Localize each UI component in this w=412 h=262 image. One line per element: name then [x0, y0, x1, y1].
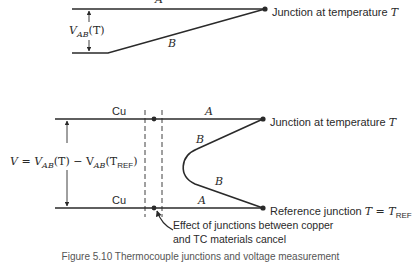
junction-label-top: Junction at temperature T — [272, 2, 398, 20]
voltage-equation: V = VAB(T) − VAB(TREF) — [10, 155, 137, 170]
junction-ref-equation: T = T — [365, 205, 396, 218]
equation-arg-close: ) — [133, 155, 137, 168]
voltage-symbol: V — [69, 24, 77, 37]
junction-ref-label: Reference junction T = TREF — [270, 201, 412, 220]
cu-label-bottom: Cu — [112, 194, 126, 206]
junction-hot-symbol: T — [389, 116, 396, 129]
bottom-diagram — [55, 110, 266, 230]
figure-caption: Figure 5.10 Thermocouple junctions and v… — [0, 251, 401, 262]
voltage-subscript: AB — [77, 30, 89, 39]
voltage-argument: (T) — [89, 24, 105, 37]
wire-a-label-top: A — [155, 0, 163, 6]
annotation-line-2: and TC materials cancel — [173, 233, 286, 245]
junction-hot-label: Junction at temperature T — [270, 112, 396, 130]
cu-label-top: Cu — [112, 105, 126, 117]
cu-junction-dot-bottom — [152, 206, 157, 211]
wire-b-label-upper: B — [196, 133, 204, 146]
equation-ref-subscript: REF — [117, 161, 133, 170]
voltage-label-top: VAB(T) — [69, 24, 105, 39]
equation-lhs: V = V — [10, 155, 42, 168]
wire-a-label-lower: A — [198, 194, 206, 207]
junction-label-text: Junction at temperature — [272, 6, 391, 18]
equation-mid: (T) − V — [54, 155, 94, 168]
wire-b-label-lower: B — [215, 175, 223, 188]
cu-junction-dot-top — [152, 117, 157, 122]
junction-hot-text: Junction at temperature — [270, 116, 389, 128]
junction-temperature-symbol: T — [391, 6, 398, 19]
annotation-leader — [157, 211, 173, 230]
junction-dot-hot — [260, 116, 265, 121]
equation-sub2: AB — [94, 161, 106, 170]
equation-sub1: AB — [42, 161, 54, 170]
junction-dot-ref — [260, 205, 265, 210]
wire-a-label-upper: A — [205, 105, 213, 118]
annotation-line-1: Effect of junctions between copper — [173, 219, 333, 231]
wire-b-label-top: B — [168, 37, 176, 50]
junction-dot-top — [262, 6, 267, 11]
junction-ref-subscript: REF — [396, 211, 412, 220]
junction-ref-text: Reference junction — [270, 205, 365, 217]
equation-arg-open: (T — [106, 155, 118, 168]
